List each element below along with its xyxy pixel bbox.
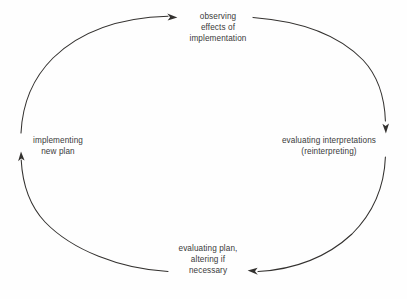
node-label-evaluating-plan-line-1: evaluating plan, [148, 243, 268, 254]
arrow-to-evaluating-interpretations-head [382, 123, 389, 133]
node-label-observing-line-1: observing [158, 11, 278, 22]
node-label-evaluating-plan-line-2: altering if [148, 254, 268, 265]
node-label-evaluating-interpretations: evaluating interpretations (reinterpreti… [269, 135, 389, 157]
node-label-implementing: implementing new plan [8, 135, 108, 157]
node-label-evaluating-interpretations-line-1: evaluating interpretations [269, 135, 389, 146]
node-label-evaluating-plan: evaluating plan, altering if necessary [148, 243, 268, 276]
node-label-observing-line-3: implementation [158, 33, 278, 44]
node-label-observing: observing effects of implementation [158, 11, 278, 44]
arc-bottom-to-left [21, 160, 168, 272]
arc-right-to-bottom [258, 157, 385, 272]
arc-left-to-top [21, 16, 168, 133]
node-label-evaluating-plan-line-3: necessary [148, 265, 268, 276]
node-label-implementing-line-1: implementing [8, 135, 108, 146]
node-label-evaluating-interpretations-line-2: (reinterpreting) [269, 146, 389, 157]
node-label-observing-line-2: effects of [158, 22, 278, 33]
cycle-diagram: observing effects of implementation eval… [0, 0, 407, 299]
node-label-implementing-line-2: new plan [8, 146, 108, 157]
